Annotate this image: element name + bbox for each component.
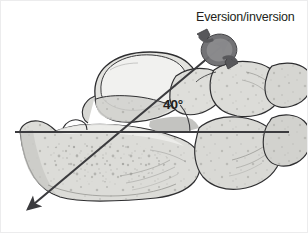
cuneiform-bone (265, 63, 308, 107)
lateral-cuneiform-bone (263, 115, 308, 166)
subtalar-axis-figure: Eversion/inversion 40° (0, 0, 308, 233)
foot-bones-illustration (0, 0, 308, 233)
angle-label: 40° (163, 98, 183, 112)
eversion-inversion-label: Eversion/inversion (196, 11, 295, 24)
sinus-tarsi-shading (149, 117, 199, 133)
